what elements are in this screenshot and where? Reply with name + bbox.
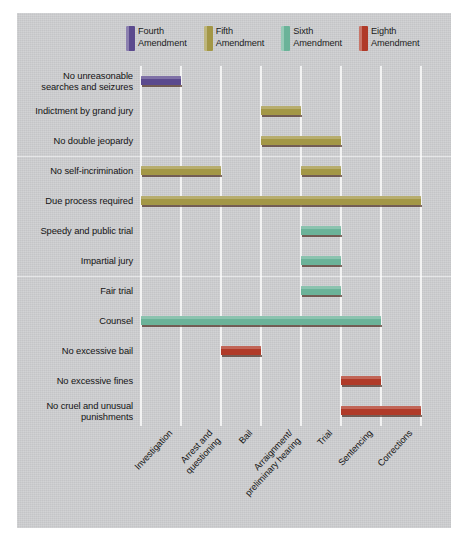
chart-bar bbox=[141, 76, 181, 85]
chart-bar bbox=[301, 166, 341, 175]
legend-item-label: Sixth Amendment bbox=[293, 26, 342, 49]
row-label: Indictment by grand jury bbox=[17, 96, 133, 126]
x-axis-tick-label: Sentencing bbox=[336, 428, 374, 468]
chart-row: Speedy and public trial bbox=[17, 216, 468, 246]
chart-bar bbox=[141, 196, 421, 205]
chart-row: No self-incrimination bbox=[17, 156, 468, 186]
chart-bar bbox=[141, 316, 381, 325]
chart-bar bbox=[221, 346, 261, 355]
row-label: No excessive bail bbox=[17, 336, 133, 366]
legend-swatch-icon bbox=[359, 26, 368, 51]
x-axis-tick-label: Arrest and questioning bbox=[176, 428, 223, 476]
row-label: No cruel and unusual punishments bbox=[17, 396, 133, 426]
chart-bar bbox=[261, 106, 301, 115]
row-label: Due process required bbox=[17, 186, 133, 216]
legend-item-label: Fourth Amendment bbox=[138, 26, 187, 49]
chart-row: Counsel bbox=[17, 306, 468, 336]
chart-row: Due process required bbox=[17, 186, 468, 216]
legend-item: Fourth Amendment bbox=[126, 26, 187, 51]
row-label: No double jeopardy bbox=[17, 126, 133, 156]
chart-bar bbox=[341, 376, 381, 385]
legend-swatch-icon bbox=[204, 26, 213, 51]
chart-row: No excessive fines bbox=[17, 366, 468, 396]
legend-item-label: Fifth Amendment bbox=[216, 26, 265, 49]
x-axis-tick-labels: InvestigationArrest and questioningBailA… bbox=[141, 428, 431, 528]
legend-item-label: Eighth Amendment bbox=[371, 26, 420, 49]
row-label: No unreasonable searches and seizures bbox=[17, 66, 133, 96]
row-label: Impartial jury bbox=[17, 246, 133, 276]
row-label: Speedy and public trial bbox=[17, 216, 133, 246]
chart-row: No unreasonable searches and seizures bbox=[17, 66, 468, 96]
row-label: Fair trial bbox=[17, 276, 133, 306]
chart-figure: Fourth AmendmentFifth AmendmentSixth Ame… bbox=[0, 0, 468, 541]
legend-swatch-icon bbox=[281, 26, 290, 51]
x-axis-tick-label: Trial bbox=[315, 428, 334, 448]
x-axis-tick-label: Bail bbox=[237, 428, 255, 446]
legend-swatch-icon bbox=[126, 26, 135, 51]
chart-bar bbox=[341, 406, 421, 415]
chart-row: Indictment by grand jury bbox=[17, 96, 468, 126]
legend-item: Fifth Amendment bbox=[204, 26, 265, 51]
chart-bar bbox=[301, 286, 341, 295]
chart-bar bbox=[261, 136, 341, 145]
chart-row: No cruel and unusual punishments bbox=[17, 396, 468, 426]
chart-row: Impartial jury bbox=[17, 246, 468, 276]
row-label: No self-incrimination bbox=[17, 156, 133, 186]
row-label: No excessive fines bbox=[17, 366, 133, 396]
chart-bar bbox=[301, 256, 341, 265]
legend-item: Eighth Amendment bbox=[359, 26, 420, 51]
legend-item: Sixth Amendment bbox=[281, 26, 342, 51]
chart-bar bbox=[141, 166, 221, 175]
chart-legend: Fourth AmendmentFifth AmendmentSixth Ame… bbox=[126, 26, 420, 56]
chart-row: No double jeopardy bbox=[17, 126, 468, 156]
chart-bar bbox=[301, 226, 341, 235]
row-label: Counsel bbox=[17, 306, 133, 336]
x-axis-tick-label: Corrections bbox=[376, 428, 415, 469]
chart-row: No excessive bail bbox=[17, 336, 468, 366]
chart-row: Fair trial bbox=[17, 276, 468, 306]
plot-area: No unreasonable searches and seizuresInd… bbox=[141, 66, 421, 426]
